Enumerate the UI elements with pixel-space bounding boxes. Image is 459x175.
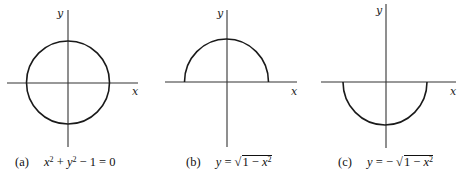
eq-exp: 2 — [429, 155, 433, 164]
sqrt-sign-icon: √ — [235, 155, 242, 169]
caption-b: (b) y = √1 − x2 — [186, 155, 272, 170]
eq-rest: − 1 = 0 — [76, 155, 115, 169]
panel-b: y x — [165, 7, 298, 147]
radicand: 1 − x2 — [404, 155, 433, 169]
x-axis-label: x — [132, 85, 139, 98]
panel-a: y x — [7, 7, 139, 147]
eq-sign: − — [386, 155, 396, 169]
panel-tag: (b) — [186, 155, 201, 169]
radicand-const: 1 − — [404, 155, 424, 169]
panel-tag: (c) — [338, 155, 352, 169]
x-axis-label: x — [450, 85, 457, 98]
radicand: 1 − x2 — [242, 155, 271, 169]
eq-exp: 2 — [268, 155, 272, 164]
y-axis-label: y — [375, 4, 383, 17]
caption-a: (a) x2 + y2 − 1 = 0 — [15, 155, 116, 170]
x-axis-label: x — [291, 85, 298, 98]
eq-plus: + — [54, 155, 67, 169]
caption-c: (c) y = − √1 − x2 — [338, 155, 433, 170]
lower-semicircle-curve — [343, 82, 427, 125]
panel-tag: (a) — [15, 155, 29, 169]
panel-c: y x — [321, 4, 457, 148]
figure-canvas: y x y x y x — [0, 0, 459, 175]
y-axis-label: y — [56, 7, 64, 20]
sqrt-sign-icon: √ — [396, 155, 403, 169]
y-axis-label: y — [216, 7, 224, 20]
eq-equals: = — [373, 155, 386, 169]
eq-equals: = — [221, 155, 234, 169]
radicand-const: 1 − — [242, 155, 262, 169]
